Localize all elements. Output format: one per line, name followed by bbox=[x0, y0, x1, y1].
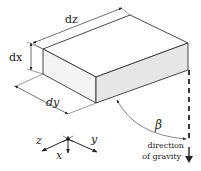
box-gravity-diagram: dz dx dy direction of gravity β z x y bbox=[0, 0, 201, 171]
dy-label: dy bbox=[46, 96, 60, 109]
coordinate-axes: z x y bbox=[35, 133, 98, 162]
box bbox=[43, 15, 188, 103]
beta-angle: β bbox=[117, 100, 186, 139]
dz-label: dz bbox=[65, 13, 78, 26]
gravity-arrow-icon bbox=[185, 156, 193, 163]
axis-y-label: y bbox=[90, 133, 98, 146]
axis-z-label: z bbox=[35, 134, 42, 147]
axes-origin bbox=[66, 137, 70, 141]
beta-label: β bbox=[154, 118, 162, 132]
gravity-label-line1: direction bbox=[148, 141, 184, 150]
dx-dimension: dx bbox=[9, 42, 43, 74]
gravity-label-line2: of gravity bbox=[142, 152, 181, 161]
dx-label: dx bbox=[9, 51, 23, 64]
axis-x-label: x bbox=[56, 149, 63, 162]
